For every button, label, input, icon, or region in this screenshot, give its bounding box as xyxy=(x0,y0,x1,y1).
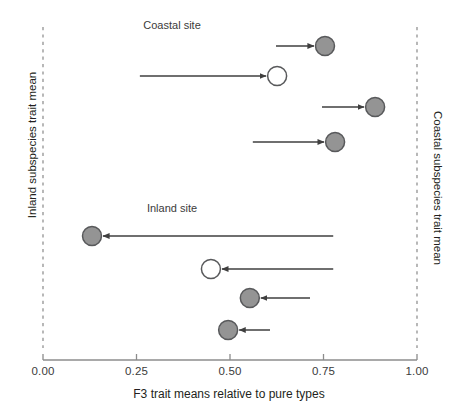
x-axis-title: F3 trait means relative to pure types xyxy=(133,387,324,401)
scatter-plot-canvas xyxy=(0,0,458,416)
x-tick-label: 0.75 xyxy=(312,365,335,377)
data-point-open xyxy=(201,260,220,279)
coastal-site-label: Coastal site xyxy=(143,19,200,31)
data-point-filled xyxy=(315,37,334,56)
reference-lines xyxy=(43,27,417,348)
data-point-filled xyxy=(366,98,385,117)
inland-site-panel xyxy=(82,227,333,340)
x-tick-label: 1.00 xyxy=(406,365,429,377)
x-tick-label: 0.00 xyxy=(32,365,55,377)
data-point-filled xyxy=(219,321,238,340)
data-point-filled xyxy=(82,227,101,246)
x-axis xyxy=(43,354,417,360)
x-tick-label: 0.50 xyxy=(219,365,242,377)
x-axis-ticks xyxy=(43,354,417,360)
x-tick-label: 0.25 xyxy=(125,365,148,377)
left-axis-title: Inland subspecies trait mean xyxy=(26,0,38,295)
coastal-site-panel xyxy=(140,37,385,152)
right-axis-title: Coastal subspecies trait mean xyxy=(432,33,444,343)
inland-site-label: Inland site xyxy=(147,202,197,214)
data-point-filled xyxy=(240,289,259,308)
figure-container: Coastal site Inland site 0.000.250.500.7… xyxy=(0,0,458,416)
data-point-filled xyxy=(326,133,345,152)
data-point-open xyxy=(268,67,287,86)
